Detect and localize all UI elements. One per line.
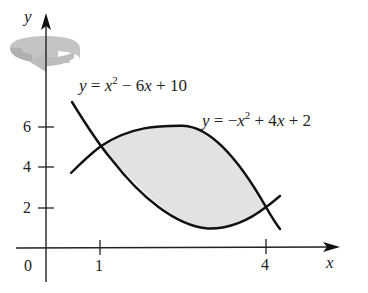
x-axis-label: x	[326, 254, 334, 271]
y-tick-label-6: 6	[23, 119, 31, 135]
eq2-term3: + 2	[284, 111, 311, 130]
equation-label-arch-curve: y = −x2 + 4x + 2	[202, 112, 311, 129]
region-between-curves-diagram: y x 0 1 4 2 4 6 y = x2 − 6x + 10 y = −x2…	[0, 0, 368, 293]
eq1-equals: =	[87, 76, 105, 95]
y-axis-label: y	[24, 8, 32, 25]
x-axis	[16, 247, 330, 248]
eq2-equals: = −	[210, 111, 238, 130]
diagram-canvas	[0, 0, 368, 293]
y-tick-label-4: 4	[23, 159, 31, 175]
rotation-arrow-icon	[10, 36, 80, 72]
eq2-x: x	[237, 111, 245, 130]
eq1-term2: − 6	[118, 76, 145, 95]
origin-label: 0	[24, 258, 32, 274]
eq1-term3: + 10	[152, 76, 187, 95]
eq1-x2: x	[144, 76, 152, 95]
equation-label-upper-curve: y = x2 − 6x + 10	[79, 77, 187, 94]
eq1-lhs: y	[79, 76, 87, 95]
x-tick-label-1: 1	[95, 258, 103, 274]
eq2-lhs: y	[202, 111, 210, 130]
eq2-term2: + 4	[250, 111, 277, 130]
y-tick-label-2: 2	[23, 200, 31, 216]
x-tick-label-4: 4	[261, 257, 269, 273]
